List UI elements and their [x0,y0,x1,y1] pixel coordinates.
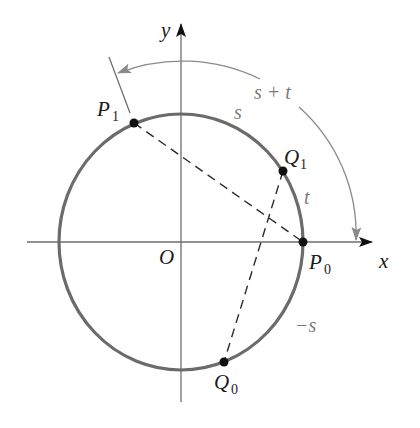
unit-circle-diagram: y x O P 1 Q 1 P 0 Q 0 s t s + t −s [0,0,420,428]
svg-text:0: 0 [324,262,331,277]
point-p1 [130,119,139,128]
y-axis-label: y [159,18,171,42]
origin-label: O [159,245,174,269]
chord-p1-p0 [134,123,303,242]
svg-text:1: 1 [300,157,307,172]
svg-text:Q: Q [284,145,299,169]
label-q1: Q 1 [284,145,307,172]
chord-q1-q0 [224,171,283,362]
outer-arc-s-plus-t-upper [118,61,260,79]
arc-label-s-plus-t: s + t [254,81,291,103]
label-p0: P 0 [308,250,331,277]
label-q0: Q 0 [214,370,238,397]
arc-label-minus-s: −s [295,314,316,336]
label-p1: P 1 [96,97,119,124]
svg-text:P: P [308,250,322,274]
svg-text:Q: Q [214,370,229,394]
p1-radial-tick [109,57,130,113]
arc-label-t: t [304,186,310,208]
point-q0 [220,358,229,367]
outer-arc-s-plus-t-lower [299,107,356,240]
svg-text:0: 0 [231,382,238,397]
point-p0 [299,238,308,247]
arc-label-s: s [234,101,242,123]
axes [27,24,372,402]
x-axis-label: x [378,249,389,273]
svg-text:1: 1 [112,109,119,124]
svg-text:P: P [96,97,110,121]
